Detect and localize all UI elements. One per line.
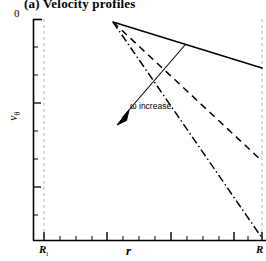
omega-arrow-shaft [122, 45, 185, 118]
y-axis-ticks [34, 47, 41, 215]
velocity-profile-curves [113, 22, 262, 238]
velocity-curve-dashed [113, 22, 262, 161]
x-axis-ticks [44, 232, 262, 240]
velocity-profiles-figure: (a) Velocity profiles 0 vθ r Ri R ω incr… [0, 0, 266, 261]
axes [33, 19, 266, 241]
velocity-curve-dash-dot [113, 22, 262, 238]
omega-arrow-head [117, 110, 129, 125]
velocity-curve-solid [113, 22, 262, 68]
plot-canvas [0, 0, 266, 261]
